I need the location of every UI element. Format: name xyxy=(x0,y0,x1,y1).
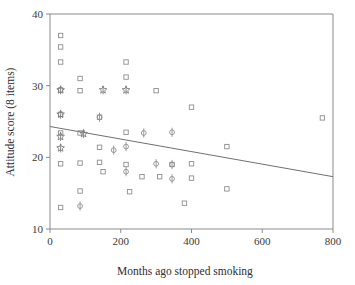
figure-container: 020040060080010203040 Months ago stopped… xyxy=(0,0,355,285)
data-point-phi xyxy=(111,146,116,155)
data-point-square xyxy=(189,162,193,166)
data-point-phi xyxy=(124,167,129,176)
data-point-square xyxy=(78,88,82,92)
data-point-star xyxy=(57,132,65,141)
regression-line xyxy=(50,127,333,177)
data-point-square xyxy=(124,162,128,166)
data-point-square xyxy=(157,174,161,178)
y-tick-label: 20 xyxy=(32,151,44,163)
regression-line-path xyxy=(50,127,333,177)
data-point-star xyxy=(57,144,65,153)
data-point-square xyxy=(97,145,101,149)
data-point-square xyxy=(225,144,229,148)
x-tick-label: 0 xyxy=(47,235,53,247)
data-point-square xyxy=(124,75,128,79)
scatter-plot: 020040060080010203040 Months ago stopped… xyxy=(0,0,355,285)
data-points xyxy=(57,33,325,210)
y-tick-label: 30 xyxy=(32,80,44,92)
data-point-star xyxy=(99,86,107,95)
plot-frame xyxy=(50,14,333,229)
data-point-square xyxy=(124,60,128,64)
x-tick-label: 400 xyxy=(183,235,200,247)
data-point-square xyxy=(58,60,62,64)
data-point-phi xyxy=(170,174,175,183)
data-point-phi xyxy=(170,128,175,137)
data-point-phi xyxy=(141,128,146,137)
data-point-square xyxy=(124,130,128,134)
plot-box xyxy=(50,14,333,229)
y-tick-label: 10 xyxy=(32,223,44,235)
y-axis-title: Attitude score (8 items) xyxy=(4,67,17,176)
data-point-square xyxy=(58,33,62,37)
y-tick-label: 40 xyxy=(32,8,44,20)
data-point-phi xyxy=(170,160,175,169)
data-point-star xyxy=(57,86,65,95)
x-tick-label: 800 xyxy=(325,235,342,247)
data-point-square xyxy=(78,161,82,165)
data-point-square xyxy=(182,201,186,205)
data-point-square xyxy=(154,88,158,92)
x-tick-label: 200 xyxy=(113,235,130,247)
axis-tick-labels: 020040060080010203040 xyxy=(32,8,342,247)
data-point-star xyxy=(57,110,65,119)
data-point-phi xyxy=(154,159,159,168)
x-tick-label: 600 xyxy=(254,235,271,247)
data-point-square xyxy=(225,187,229,191)
data-point-star xyxy=(122,86,130,95)
data-point-square xyxy=(78,189,82,193)
data-point-square xyxy=(78,76,82,80)
x-axis-title: Months ago stopped smoking xyxy=(117,265,253,278)
data-point-square xyxy=(101,169,105,173)
data-point-square xyxy=(189,176,193,180)
data-point-square xyxy=(140,174,144,178)
data-point-square xyxy=(58,162,62,166)
data-point-square xyxy=(58,205,62,209)
data-point-square xyxy=(97,160,101,164)
data-point-phi xyxy=(124,142,129,151)
data-point-square xyxy=(189,105,193,109)
data-point-square xyxy=(320,116,324,120)
data-point-phi xyxy=(97,113,102,122)
data-point-phi xyxy=(78,201,83,210)
data-point-square xyxy=(58,45,62,49)
data-point-square xyxy=(127,190,131,194)
axis-ticks xyxy=(46,14,333,233)
